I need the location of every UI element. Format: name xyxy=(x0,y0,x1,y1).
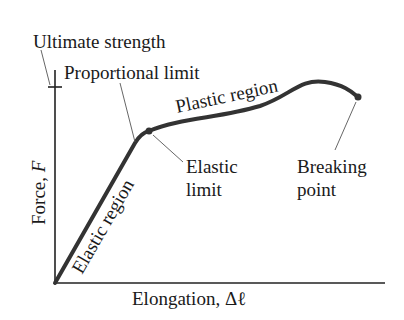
ultimate-strength-leader xyxy=(41,50,50,85)
elastic-limit-leader xyxy=(153,135,183,162)
breaking-point-dot xyxy=(355,94,362,101)
elastic-limit-label-line1: Elastic xyxy=(186,156,238,177)
breaking-point-leader xyxy=(335,102,356,150)
proportional-limit-label: Proportional limit xyxy=(64,62,200,83)
svg-text:Force, F: Force, F xyxy=(28,160,49,225)
ultimate-strength-label: Ultimate strength xyxy=(33,31,166,52)
breaking-point-label-line1: Breaking xyxy=(297,156,367,177)
x-axis-label: Elongation, Δℓ xyxy=(132,288,246,309)
elastic-limit-dot xyxy=(146,128,153,135)
diagram-canvas: Ultimate strength Proportional limit Pla… xyxy=(0,0,404,320)
breaking-point-label-line2: point xyxy=(297,179,337,200)
proportional-limit-leader xyxy=(120,83,135,142)
elastic-region-label: Elastic region xyxy=(67,175,138,277)
y-axis-label: Force, F xyxy=(28,160,49,225)
stress-strain-diagram: Ultimate strength Proportional limit Pla… xyxy=(0,0,404,320)
elastic-limit-label-line2: limit xyxy=(186,179,223,200)
